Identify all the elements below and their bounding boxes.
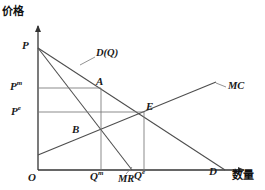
- marginal-revenue-curve-label: MR: [118, 174, 134, 185]
- price-tick-equilibrium-sup: e: [18, 104, 21, 112]
- point-label-B: B: [72, 124, 79, 135]
- diagram-canvas: [0, 0, 265, 190]
- point-label-A: A: [96, 76, 103, 87]
- origin-label: O: [28, 172, 36, 183]
- marginal-cost-curve: [38, 82, 216, 155]
- point-label-E: E: [146, 101, 153, 112]
- quantity-tick-monopoly: Qm: [90, 171, 103, 182]
- demand-label-leader: [80, 57, 95, 65]
- demand-curve: [38, 48, 225, 170]
- mc-label-leader: [216, 83, 226, 87]
- economics-diagram-figure: 价格 数量 O P A B E D Pm Pe Qm Qe D(Q) MR MC: [0, 0, 265, 190]
- price-tick-monopoly: Pm: [10, 81, 22, 92]
- marginal-revenue-curve: [38, 48, 132, 170]
- point-label-D: D: [209, 166, 217, 177]
- quantity-tick-monopoly-base: Q: [90, 170, 98, 182]
- quantity-tick-equilibrium-sup: e: [142, 168, 145, 176]
- price-tick-monopoly-base: P: [10, 80, 17, 92]
- quantity-tick-equilibrium: Qe: [134, 170, 145, 181]
- quantity-tick-equilibrium-base: Q: [134, 169, 142, 181]
- marginal-cost-curve-label: MC: [228, 81, 244, 92]
- price-tick-equilibrium-base: P: [11, 105, 18, 117]
- demand-curve-label: D(Q): [96, 48, 118, 59]
- price-tick-equilibrium: Pe: [11, 106, 21, 117]
- quantity-tick-monopoly-sup: m: [98, 169, 103, 177]
- price-tick-monopoly-sup: m: [17, 79, 22, 87]
- x-axis-label: 数量: [232, 170, 254, 181]
- y-axis-label: 价格: [2, 6, 24, 17]
- point-label-P: P: [22, 40, 29, 51]
